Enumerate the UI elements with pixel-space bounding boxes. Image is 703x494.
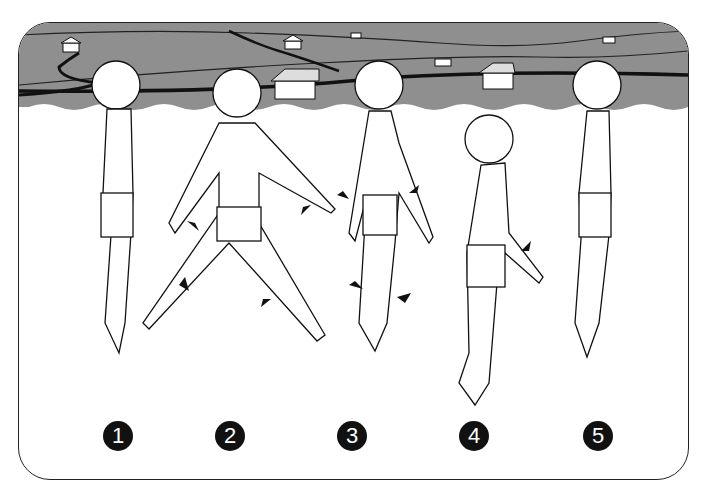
house-icon xyxy=(435,59,451,66)
arrow-icon xyxy=(521,241,531,251)
house-icon xyxy=(351,33,361,38)
arrow-icon xyxy=(337,191,349,199)
figure-step-4 xyxy=(459,115,543,405)
step-badge-5: 5 xyxy=(583,421,613,451)
arrow-icon xyxy=(301,205,311,215)
step-badge-2: 2 xyxy=(215,421,245,451)
step-badge-1: 1 xyxy=(103,421,133,451)
arrow-icon xyxy=(261,299,271,307)
arrow-icon xyxy=(187,221,199,231)
house-icon xyxy=(603,37,615,43)
scene xyxy=(19,23,688,479)
illustration-frame: 1 2 3 4 5 xyxy=(18,22,689,480)
arrow-icon xyxy=(397,293,411,303)
figure-step-2 xyxy=(143,69,335,341)
step-badge-4: 4 xyxy=(459,421,489,451)
step-badge-3: 3 xyxy=(337,421,367,451)
